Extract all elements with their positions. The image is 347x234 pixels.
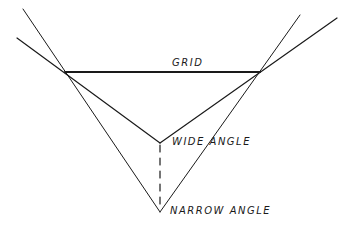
wide-angle-ray-right: [160, 18, 337, 143]
camera-angle-diagram: GRID WIDE ANGLE NARROW ANGLE: [0, 0, 347, 234]
grid-label: GRID: [172, 57, 203, 68]
narrow-angle-label: NARROW ANGLE: [170, 205, 271, 216]
narrow-angle-ray-left: [23, 9, 160, 212]
wide-angle-label: WIDE ANGLE: [172, 136, 251, 147]
narrow-angle-ray-right: [160, 15, 300, 212]
wide-angle-ray-left: [17, 38, 160, 143]
